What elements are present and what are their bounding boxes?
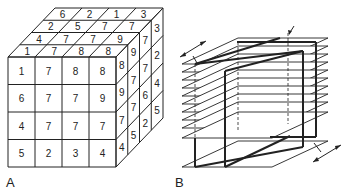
side-cell-number: 6 xyxy=(143,90,149,101)
front-cell-number: 5 xyxy=(19,148,25,159)
top-cell-number: 1 xyxy=(25,46,31,57)
front-cell-number: 4 xyxy=(19,121,25,132)
top-cell-number: 7 xyxy=(52,46,58,57)
front-cell-number: 4 xyxy=(100,148,106,159)
side-cell-number: 2 xyxy=(143,118,149,129)
panel-b-slice-stack xyxy=(180,26,341,167)
panel-a-label: A xyxy=(6,175,15,190)
top-cell-number: 8 xyxy=(106,46,112,57)
front-cell-number: 8 xyxy=(100,66,106,77)
front-cell-number: 7 xyxy=(73,93,79,104)
top-cell-number: 3 xyxy=(141,9,147,20)
front-cell-number: 2 xyxy=(46,148,52,159)
top-cell-number: 8 xyxy=(79,46,85,57)
front-cell-number: 9 xyxy=(100,93,106,104)
top-cell-number: 7 xyxy=(129,21,135,32)
top-cell-number: 2 xyxy=(87,9,93,20)
front-cell-number: 6 xyxy=(19,93,25,104)
top-cell-number: 7 xyxy=(63,34,69,45)
side-cell-number: 8 xyxy=(119,60,125,71)
side-cell-number: 7 xyxy=(143,63,149,74)
side-cell-number: 5 xyxy=(131,130,137,141)
top-cell-number: 6 xyxy=(60,9,66,20)
top-cell-number: 5 xyxy=(75,21,81,32)
panel-a-cube xyxy=(8,8,163,167)
side-cell-number: 2 xyxy=(154,50,160,61)
front-cell-number: 7 xyxy=(46,66,52,77)
top-cell-number: 9 xyxy=(117,34,123,45)
side-cell-number: 5 xyxy=(154,105,160,116)
front-cell-number: 7 xyxy=(100,121,106,132)
side-cell-number: 7 xyxy=(131,102,137,113)
side-cell-number: 7 xyxy=(131,75,137,86)
top-cell-number: 2 xyxy=(48,21,54,32)
front-cell-number: 1 xyxy=(19,66,25,77)
front-cell-number: 3 xyxy=(73,148,79,159)
top-cell-number: 1 xyxy=(114,9,120,20)
side-cell-number: 7 xyxy=(119,115,125,126)
figure: 1788677947775234621325774779178889749775… xyxy=(0,0,351,192)
side-cell-number: 9 xyxy=(131,47,137,58)
side-cell-number: 4 xyxy=(154,78,160,89)
top-cell-number: 7 xyxy=(102,21,108,32)
side-cell-number: 3 xyxy=(154,23,160,34)
top-cell-number: 4 xyxy=(36,34,42,45)
front-cell-number: 7 xyxy=(46,121,52,132)
front-cell-number: 8 xyxy=(73,66,79,77)
top-cell-number: 7 xyxy=(90,34,96,45)
side-cell-number: 9 xyxy=(119,87,125,98)
front-cell-number: 7 xyxy=(73,121,79,132)
front-cell-number: 7 xyxy=(46,93,52,104)
side-cell-number: 4 xyxy=(119,142,125,153)
side-cell-number: 7 xyxy=(143,35,149,46)
panel-b-label: B xyxy=(175,175,184,190)
